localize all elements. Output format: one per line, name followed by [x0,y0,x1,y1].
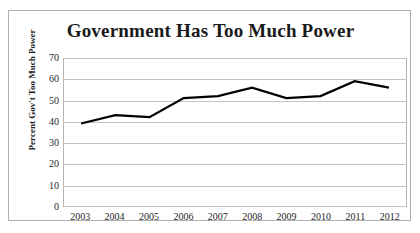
chart-title: Government Has Too Much Power [9,20,412,42]
x-tick-label: 2012 [370,211,410,223]
y-tick-label: 60 [31,74,59,84]
x-axis-tick-labels: 2003200420052006200720082009201020112012 [63,211,407,227]
line-series-percent-govt-too-much-power [64,58,406,206]
y-axis-tick-labels: 706050403020100 [31,51,59,207]
y-tick-label: 40 [31,117,59,127]
y-tick-label: 0 [31,202,59,212]
gridline [64,206,406,207]
chart-figure-frame: Government Has Too Much Power Percent Go… [8,10,411,221]
y-tick-label: 70 [31,53,59,63]
plot-area [63,58,407,207]
series-polyline [81,81,389,123]
y-tick-label: 50 [31,96,59,106]
y-tick-label: 30 [31,138,59,148]
y-tick-label: 10 [31,181,59,191]
y-tick-label: 20 [31,159,59,169]
